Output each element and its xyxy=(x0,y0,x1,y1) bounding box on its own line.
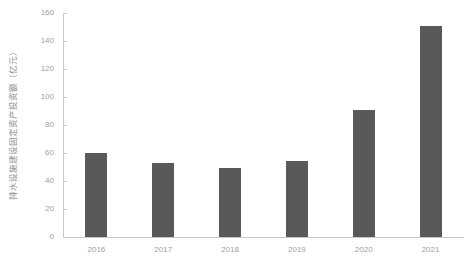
y-tick-mark xyxy=(63,41,67,42)
y-tick-mark xyxy=(63,237,67,238)
y-tick-label: 60 xyxy=(14,147,54,158)
bar-2016[interactable] xyxy=(85,153,107,237)
y-tick-label: 100 xyxy=(14,91,54,102)
y-tick-mark xyxy=(63,209,67,210)
x-tick-label-2016: 2016 xyxy=(63,244,129,255)
y-tick-mark xyxy=(63,69,67,70)
y-tick-label: 80 xyxy=(14,119,54,130)
x-tick-label-2017: 2017 xyxy=(130,244,196,255)
y-tick-mark xyxy=(63,181,67,182)
bar-2019[interactable] xyxy=(286,161,308,237)
y-tick-mark xyxy=(63,13,67,14)
bar-chart-figure: 排水设施建设固定资产投资额（亿元） 020406080100120140160 … xyxy=(0,0,472,266)
y-tick-mark xyxy=(63,97,67,98)
y-tick-label: 120 xyxy=(14,63,54,74)
y-tick-label: 40 xyxy=(14,175,54,186)
x-tick-label-2020: 2020 xyxy=(331,244,397,255)
y-tick-label: 160 xyxy=(14,7,54,18)
bar-2021[interactable] xyxy=(420,26,442,237)
x-tick-label-2021: 2021 xyxy=(398,244,464,255)
y-tick-mark xyxy=(63,153,67,154)
x-tick-label-2018: 2018 xyxy=(197,244,263,255)
x-axis-line xyxy=(63,237,464,238)
bar-2020[interactable] xyxy=(353,110,375,237)
y-tick-mark xyxy=(63,125,67,126)
bar-2017[interactable] xyxy=(152,163,174,237)
x-tick-label-2019: 2019 xyxy=(264,244,330,255)
plot-area: 020406080100120140160 201620172018201920… xyxy=(63,13,464,237)
y-tick-label: 20 xyxy=(14,203,54,214)
y-tick-label: 0 xyxy=(14,231,54,242)
bar-2018[interactable] xyxy=(219,168,241,237)
y-tick-label: 140 xyxy=(14,35,54,46)
